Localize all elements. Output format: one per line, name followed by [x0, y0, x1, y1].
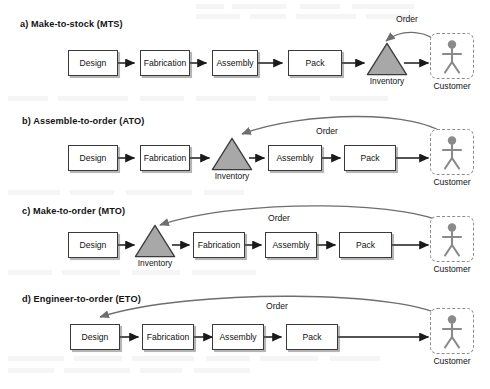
stage-box-pack-mts[interactable]: Pack: [288, 50, 342, 76]
order-label-mts: Order: [396, 14, 418, 24]
customer-label-mto: Customer: [422, 264, 482, 274]
production-strategies-diagram: a) Make-to-stock (MTS) Design Fabricatio…: [0, 0, 490, 389]
stage-box-fabrication-mts[interactable]: Fabrication: [140, 50, 190, 76]
customer-stick-figure-icon: [430, 33, 474, 79]
stage-box-fabrication-mto[interactable]: Fabrication: [193, 232, 245, 258]
customer-node-mts[interactable]: Customer: [430, 33, 476, 95]
stage-box-design-eto[interactable]: Design: [70, 324, 120, 350]
stage-box-pack-mto[interactable]: Pack: [339, 232, 392, 258]
order-label-eto: Order: [266, 301, 288, 311]
customer-label-mts: Customer: [422, 81, 482, 91]
customer-node-eto[interactable]: Customer: [430, 308, 476, 370]
customer-stick-figure-icon: [430, 216, 474, 262]
order-arrow-mto: [160, 206, 452, 228]
inventory-node-ato[interactable]: Inventory: [211, 137, 253, 181]
inventory-label-mts: Inventory: [358, 76, 416, 86]
order-arrow-ato: [242, 117, 450, 139]
inventory-node-mto[interactable]: Inventory: [134, 224, 176, 268]
stage-box-design-mts[interactable]: Design: [68, 50, 118, 76]
stage-box-pack-eto[interactable]: Pack: [286, 324, 338, 350]
row-title-mto: c) Make-to-order (MTO): [22, 206, 125, 216]
customer-node-ato[interactable]: Customer: [430, 129, 476, 191]
customer-label-eto: Customer: [422, 356, 482, 366]
row-title-ato: b) Assemble-to-order (ATO): [22, 116, 144, 126]
stage-box-assembly-eto[interactable]: Assembly: [212, 324, 264, 350]
stage-box-fabrication-ato[interactable]: Fabrication: [140, 145, 190, 171]
stage-box-assembly-mts[interactable]: Assembly: [212, 50, 258, 76]
row-title-eto: d) Engineer-to-order (ETO): [22, 294, 141, 304]
order-label-mto: Order: [268, 213, 290, 223]
inventory-label-ato: Inventory: [203, 171, 261, 181]
customer-stick-figure-icon: [430, 308, 474, 354]
stage-box-assembly-mto[interactable]: Assembly: [265, 232, 317, 258]
stage-box-pack-ato[interactable]: Pack: [344, 145, 396, 171]
inventory-triangle-icon: [134, 224, 176, 258]
customer-stick-figure-icon: [430, 129, 474, 175]
inventory-label-mto: Inventory: [126, 258, 184, 268]
inventory-triangle-icon: [366, 42, 408, 76]
stage-box-design-mto[interactable]: Design: [68, 232, 118, 258]
inventory-triangle-icon: [211, 137, 253, 171]
inventory-node-mts[interactable]: Inventory: [366, 42, 408, 86]
row-title-mts: a) Make-to-stock (MTS): [20, 19, 123, 29]
stage-box-design-ato[interactable]: Design: [68, 145, 118, 171]
customer-label-ato: Customer: [422, 177, 482, 187]
order-label-ato: Order: [316, 126, 338, 136]
stage-box-fabrication-eto[interactable]: Fabrication: [142, 324, 194, 350]
stage-box-assembly-ato[interactable]: Assembly: [268, 145, 322, 171]
customer-node-mto[interactable]: Customer: [430, 216, 476, 278]
